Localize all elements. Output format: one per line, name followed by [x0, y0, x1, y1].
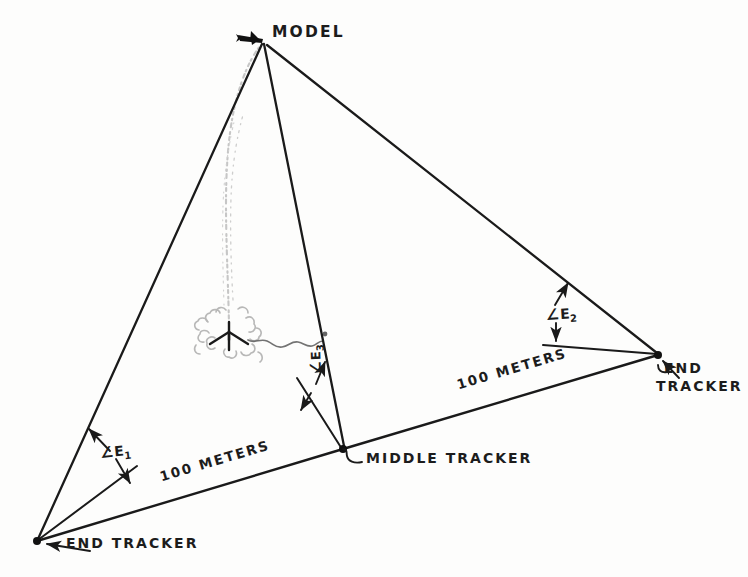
angle-subscript-e3: 3: [315, 344, 326, 351]
horizontal-reference-group: [38, 345, 657, 540]
leader-middle-tracker: [343, 449, 362, 463]
angle-symbol-e1: ∠: [99, 443, 114, 462]
vertex-dot-end-tracker-right: [654, 351, 662, 359]
angle-subscript-e1: 1: [124, 450, 132, 462]
label-angle-e2: ∠E2: [545, 304, 577, 326]
horizontal-ref-left-tracker: [38, 466, 137, 540]
angle-e2-arrow-upper: [555, 283, 568, 305]
horizontal-ref-middle-tracker: [297, 378, 342, 449]
sightline-middle-to-model: [264, 44, 344, 446]
angle-symbol-e2: ∠: [545, 305, 560, 324]
angle-symbol-e3: ∠: [307, 361, 325, 375]
angle-e3-arrow-lower: [301, 393, 311, 410]
rocket-tracking-diagram: MODEL END TRACKER ENDTRACKER MIDDLE TRAC…: [0, 0, 748, 577]
launch-pad-icon: [210, 322, 248, 350]
vertex-dot-end-tracker-left: [33, 537, 41, 545]
ignition-wire-tip: [323, 332, 328, 337]
label-middle-tracker: MIDDLE TRACKER: [366, 450, 532, 466]
label-end-tracker-right-line1: END: [664, 360, 703, 376]
label-end-tracker-right: ENDTRACKER: [664, 360, 743, 394]
sightline-right-to-model: [267, 45, 657, 353]
label-angle-e3: ∠E3: [306, 344, 327, 375]
diagram-canvas: [0, 0, 748, 577]
label-end-tracker-right-line2: TRACKER: [656, 378, 743, 394]
angle-letter-e3: E: [308, 351, 323, 360]
label-end-tracker-left: END TRACKER: [66, 535, 198, 551]
rocket-model-icon: [236, 31, 263, 45]
angle-subscript-e2: 2: [570, 313, 578, 324]
label-leader-group: [47, 361, 679, 551]
angle-letter-e2: E: [559, 305, 570, 322]
smoke-trail-wisp-a: [231, 115, 243, 300]
sight-lines-group: [38, 44, 657, 539]
label-angle-e1: ∠E1: [99, 441, 132, 464]
label-model: MODEL: [272, 24, 345, 42]
